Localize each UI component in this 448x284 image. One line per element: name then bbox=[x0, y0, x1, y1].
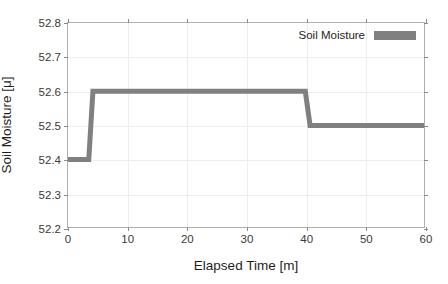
x-axis-tick-label: 50 bbox=[360, 233, 373, 245]
legend-swatch-soil-moisture bbox=[374, 31, 416, 40]
y-axis-tick bbox=[424, 195, 428, 196]
y-axis-tick-label: 52.7 bbox=[39, 51, 61, 63]
series-line-soil-moisture bbox=[68, 91, 424, 159]
y-axis-tick-label: 52.4 bbox=[39, 154, 61, 166]
x-axis-title: Elapsed Time [m] bbox=[194, 258, 298, 273]
x-axis-tick-label: 40 bbox=[300, 233, 313, 245]
y-axis-tick bbox=[424, 57, 428, 58]
y-axis-tick bbox=[424, 92, 428, 93]
chart-figure: 52.252.352.452.552.652.752.8 01020304050… bbox=[0, 0, 448, 284]
y-axis-tick-label: 52.3 bbox=[39, 189, 61, 201]
x-axis-tick-label: 20 bbox=[181, 233, 194, 245]
x-axis-tick-label: 30 bbox=[241, 233, 254, 245]
legend: Soil Moisture bbox=[299, 29, 416, 41]
x-axis-tick-label: 60 bbox=[420, 233, 433, 245]
x-axis-tick bbox=[426, 19, 427, 23]
x-axis-tick bbox=[426, 227, 427, 231]
y-axis-tick bbox=[424, 23, 428, 24]
y-axis-tick bbox=[424, 160, 428, 161]
cropped-title-remnant bbox=[60, 0, 390, 7]
series-soil-moisture bbox=[68, 23, 424, 228]
y-axis-tick-label: 52.5 bbox=[39, 120, 61, 132]
y-axis-tick-label: 52.2 bbox=[39, 223, 61, 235]
legend-label-soil-moisture: Soil Moisture bbox=[299, 29, 365, 41]
x-axis-tick-label: 10 bbox=[121, 233, 134, 245]
y-axis-tick-label: 52.6 bbox=[39, 86, 61, 98]
x-axis-tick-label: 0 bbox=[65, 233, 71, 245]
plot-area: 52.252.352.452.552.652.752.8 01020304050… bbox=[67, 22, 425, 228]
y-axis-title: Soil Moisture [μ] bbox=[0, 76, 14, 173]
y-axis-tick-label: 52.8 bbox=[39, 17, 61, 29]
y-axis-tick bbox=[424, 126, 428, 127]
